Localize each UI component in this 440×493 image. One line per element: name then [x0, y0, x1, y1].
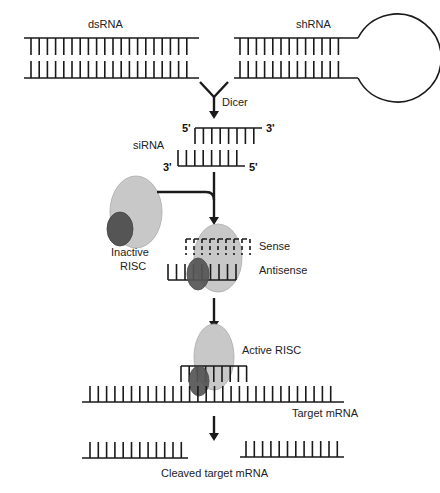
- cleaved-mrna-fragments: [82, 441, 344, 458]
- rnai-diagram: dsRNA shRNA Dicer 5' 3' 3' 5' siRNA Inac…: [0, 0, 440, 493]
- loading-arrow: [157, 172, 214, 218]
- active-risc-label: Active RISC: [242, 344, 301, 356]
- five-prime-bottom: 5': [249, 161, 258, 173]
- dicer-label: Dicer: [222, 96, 248, 108]
- sirna-label: siRNA: [133, 139, 165, 151]
- inactive-risc: [107, 176, 162, 248]
- antisense-label: Antisense: [259, 264, 307, 276]
- five-prime-top: 5': [182, 122, 191, 134]
- three-prime-top: 3': [266, 122, 275, 134]
- dsrna-label: dsRNA: [88, 18, 124, 30]
- shrna-molecule: [234, 14, 440, 102]
- sense-label: Sense: [259, 240, 290, 252]
- inactive-risc-label-2: RISC: [120, 260, 146, 272]
- three-prime-bottom: 3': [163, 161, 172, 173]
- cleaved-mrna-label: Cleaved target mRNA: [161, 467, 269, 479]
- dsrna-molecule: [24, 38, 199, 78]
- risc-loading-complex: [168, 224, 250, 292]
- inactive-risc-label-1: Inactive: [111, 246, 149, 258]
- active-risc-complex: [181, 324, 247, 396]
- shrna-label: shRNA: [296, 18, 332, 30]
- arrow-head: [209, 111, 219, 119]
- target-mrna-label: Target mRNA: [292, 407, 359, 419]
